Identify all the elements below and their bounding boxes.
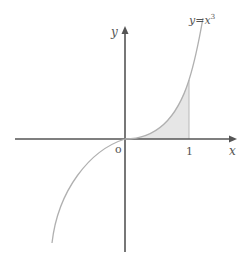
x-axis-label: x [229, 144, 236, 158]
tick-label-x-1: 1 [186, 145, 193, 158]
y-axis-label: y [110, 25, 118, 39]
x-axis-arrow-icon [229, 136, 237, 143]
origin-label: o [115, 143, 122, 156]
y-axis-arrow-icon [122, 26, 129, 34]
diagram-canvas: y x o 1 y=x3 [0, 0, 250, 267]
cubic-function-diagram: y x o 1 y=x3 [0, 0, 250, 267]
function-label: y=x3 [188, 13, 215, 27]
